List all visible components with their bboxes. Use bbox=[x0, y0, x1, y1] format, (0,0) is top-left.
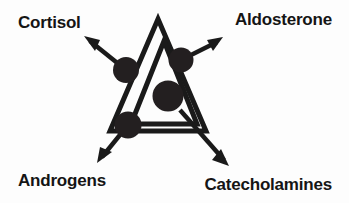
label-androgens: Androgens bbox=[18, 172, 106, 189]
node-catecholamines bbox=[153, 81, 184, 112]
label-cortisol: Cortisol bbox=[18, 14, 81, 31]
arrow-aldosterone-head bbox=[207, 37, 223, 51]
diagram-canvas: Cortisol Aldosterone Androgens Catechola… bbox=[0, 0, 349, 203]
label-aldosterone: Aldosterone bbox=[235, 11, 332, 28]
node-androgens bbox=[115, 112, 142, 139]
label-catecholamines: Catecholamines bbox=[204, 176, 332, 193]
node-cortisol bbox=[113, 57, 139, 83]
node-aldosterone bbox=[169, 48, 194, 73]
